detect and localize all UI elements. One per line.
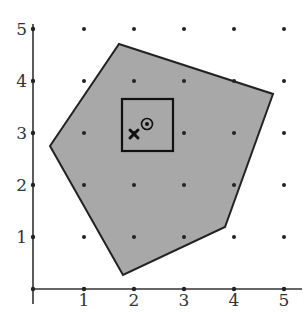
- y-tick-labels: 1 2 3 4 5: [16, 19, 27, 247]
- x-tick-2: 2: [129, 290, 140, 310]
- y-tick-1: 1: [16, 227, 27, 247]
- lattice-diagram: 1 2 3 4 5 1 2 3 4 5: [0, 0, 305, 312]
- x-tick-labels: 1 2 3 4 5: [79, 290, 290, 310]
- x-tick-3: 3: [179, 290, 190, 310]
- y-tick-2: 2: [16, 175, 27, 195]
- x-tick-1: 1: [79, 290, 90, 310]
- y-tick-5: 5: [16, 19, 27, 39]
- y-tick-3: 3: [16, 123, 27, 143]
- y-tick-4: 4: [16, 71, 27, 91]
- x-tick-5: 5: [279, 290, 290, 310]
- convex-polygon: [50, 44, 273, 275]
- x-tick-4: 4: [229, 290, 240, 310]
